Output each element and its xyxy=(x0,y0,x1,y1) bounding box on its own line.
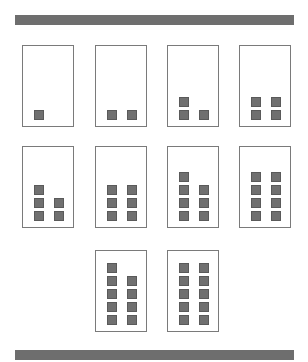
square-icon xyxy=(34,211,44,221)
square-icon xyxy=(251,211,261,221)
square-icon xyxy=(107,289,117,299)
card-1 xyxy=(22,45,74,127)
square-icon xyxy=(107,302,117,312)
square-icon xyxy=(251,172,261,182)
square-icon xyxy=(179,263,189,273)
square-icon xyxy=(199,185,209,195)
square-icon xyxy=(127,110,137,120)
square-icon xyxy=(271,185,281,195)
square-icon xyxy=(271,198,281,208)
card-3 xyxy=(167,45,219,127)
square-icon xyxy=(127,211,137,221)
square-icon xyxy=(54,198,64,208)
square-icon xyxy=(199,302,209,312)
square-icon xyxy=(179,276,189,286)
square-icon xyxy=(199,263,209,273)
square-icon xyxy=(107,185,117,195)
square-icon xyxy=(127,185,137,195)
square-icon xyxy=(199,289,209,299)
square-icon xyxy=(34,198,44,208)
square-icon xyxy=(251,110,261,120)
square-icon xyxy=(179,97,189,107)
square-icon xyxy=(271,110,281,120)
square-icon xyxy=(199,276,209,286)
bottom-bar xyxy=(15,350,294,360)
square-icon xyxy=(179,110,189,120)
square-icon xyxy=(251,198,261,208)
square-icon xyxy=(127,276,137,286)
card-6 xyxy=(95,146,147,228)
square-icon xyxy=(107,110,117,120)
top-bar xyxy=(15,15,294,25)
square-icon xyxy=(34,185,44,195)
card-10 xyxy=(167,250,219,332)
square-icon xyxy=(199,315,209,325)
square-icon xyxy=(199,211,209,221)
square-icon xyxy=(127,289,137,299)
card-9 xyxy=(95,250,147,332)
square-icon xyxy=(251,185,261,195)
card-5 xyxy=(22,146,74,228)
square-icon xyxy=(107,315,117,325)
square-icon xyxy=(107,263,117,273)
square-icon xyxy=(107,198,117,208)
square-icon xyxy=(107,211,117,221)
card-8 xyxy=(239,146,291,228)
square-icon xyxy=(54,211,64,221)
square-icon xyxy=(179,185,189,195)
square-icon xyxy=(271,97,281,107)
square-icon xyxy=(127,315,137,325)
square-icon xyxy=(127,198,137,208)
card-2 xyxy=(95,45,147,127)
square-icon xyxy=(271,172,281,182)
square-icon xyxy=(179,172,189,182)
square-icon xyxy=(127,302,137,312)
card-4 xyxy=(239,45,291,127)
square-icon xyxy=(199,110,209,120)
square-icon xyxy=(251,97,261,107)
square-icon xyxy=(179,315,189,325)
square-icon xyxy=(34,110,44,120)
square-icon xyxy=(199,198,209,208)
square-icon xyxy=(271,211,281,221)
square-icon xyxy=(179,302,189,312)
card-7 xyxy=(167,146,219,228)
square-icon xyxy=(179,198,189,208)
square-icon xyxy=(179,211,189,221)
square-icon xyxy=(107,276,117,286)
square-icon xyxy=(179,289,189,299)
